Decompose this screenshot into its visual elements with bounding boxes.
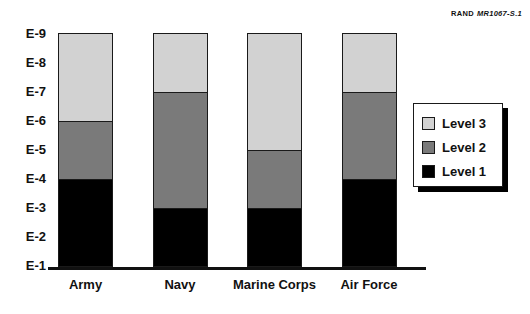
legend-swatch-level-1 <box>422 165 435 178</box>
bar-army <box>58 33 113 267</box>
y-axis-tick-e-2: E-2 <box>2 229 46 244</box>
x-axis-baseline <box>48 267 426 270</box>
bar-segment-level-2 <box>248 150 301 208</box>
y-axis-tick-e-5: E-5 <box>2 142 46 157</box>
bar-segment-level-3 <box>248 34 301 150</box>
legend-item-level-2: Level 2 <box>422 135 502 159</box>
y-axis-tick-e-3: E-3 <box>2 200 46 215</box>
bar-segment-level-2 <box>343 92 396 179</box>
bar-navy <box>153 33 208 267</box>
bar-segment-level-3 <box>59 34 112 121</box>
legend-label-level-2: Level 2 <box>442 140 486 155</box>
legend-label-level-3: Level 3 <box>442 116 486 131</box>
legend-item-level-1: Level 1 <box>422 159 502 183</box>
bar-segment-level-3 <box>343 34 396 92</box>
x-axis-label-air-force: Air Force <box>340 277 397 292</box>
x-axis-label-army: Army <box>69 277 102 292</box>
x-axis-label-navy: Navy <box>164 277 195 292</box>
bar-segment-level-1 <box>343 179 396 267</box>
bar-segment-level-1 <box>59 179 112 267</box>
legend-swatch-level-3 <box>422 117 435 130</box>
y-axis-tick-e-1: E-1 <box>2 258 46 273</box>
chart-figure: RANDMR1067-S.1 E-1E-2E-3E-4E-5E-6E-7E-8E… <box>0 0 530 314</box>
bar-segment-level-1 <box>248 208 301 267</box>
legend-label-level-1: Level 1 <box>442 164 486 179</box>
bar-segment-level-2 <box>59 121 112 179</box>
bar-segment-level-2 <box>154 92 207 208</box>
y-axis-tick-e-6: E-6 <box>2 113 46 128</box>
legend: Level 3Level 2Level 1 <box>413 103 503 187</box>
y-axis-tick-e-7: E-7 <box>2 84 46 99</box>
legend-swatch-level-2 <box>422 141 435 154</box>
bar-segment-level-1 <box>154 208 207 267</box>
y-axis-tick-e-9: E-9 <box>2 26 46 41</box>
bar-air-force <box>342 33 397 267</box>
legend-item-level-3: Level 3 <box>422 111 502 135</box>
y-axis-tick-e-8: E-8 <box>2 55 46 70</box>
x-axis-label-marine-corps: Marine Corps <box>233 277 316 292</box>
bar-marine-corps <box>247 33 302 267</box>
bar-segment-level-3 <box>154 34 207 92</box>
y-axis-tick-e-4: E-4 <box>2 171 46 186</box>
